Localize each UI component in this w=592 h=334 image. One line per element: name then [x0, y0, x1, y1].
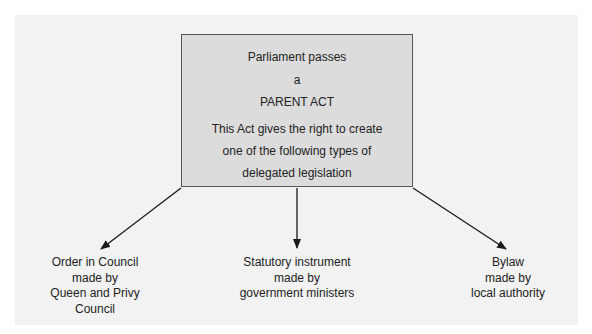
- statutory-instrument-label: Statutory instrument made by government …: [217, 255, 377, 302]
- arrow-to-bylaw: [413, 188, 506, 249]
- label-line: Queen and Privy: [15, 286, 175, 302]
- label-line: made by: [15, 271, 175, 287]
- label-line: Council: [15, 302, 175, 318]
- bylaw-label: Bylaw made by local authority: [428, 255, 588, 302]
- label-line: made by: [217, 271, 377, 287]
- label-line: Statutory instrument: [217, 255, 377, 271]
- label-line: Bylaw: [428, 255, 588, 271]
- label-line: made by: [428, 271, 588, 287]
- order-in-council-label: Order in Council made by Queen and Privy…: [15, 255, 175, 318]
- label-line: government ministers: [217, 286, 377, 302]
- label-line: local authority: [428, 286, 588, 302]
- label-line: Order in Council: [15, 255, 175, 271]
- arrow-to-order-in-council: [101, 188, 181, 249]
